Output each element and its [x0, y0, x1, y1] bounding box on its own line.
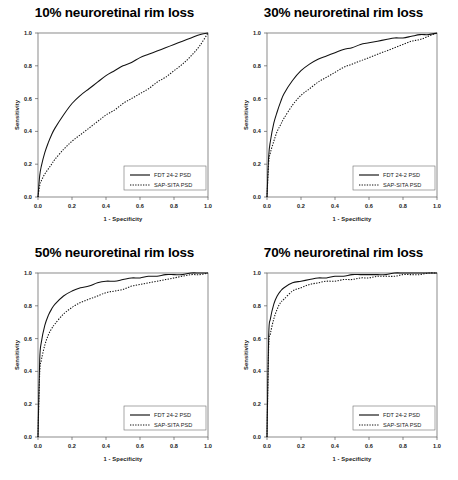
y-tick-label: 0.6 — [24, 336, 32, 342]
y-axis-title: Sensitivity — [14, 339, 20, 370]
x-tick-label: 0.0 — [263, 203, 271, 209]
y-tick-label: 0.0 — [253, 434, 261, 440]
roc-figure: 10% neuroretinal rim loss0.00.20.40.60.8… — [0, 0, 458, 480]
x-tick-label: 0.8 — [170, 203, 178, 209]
legend-label: SAP-SITA PSD — [383, 422, 421, 428]
x-tick-label: 1.0 — [204, 203, 212, 209]
roc-panel-3: 50% neuroretinal rim loss0.00.20.40.60.8… — [0, 240, 229, 480]
y-tick-label: 0.6 — [253, 336, 261, 342]
legend-label: FDT 24-2 PSD — [154, 412, 191, 418]
x-axis-title: 1 - Specificity — [104, 216, 144, 222]
y-tick-label: 0.6 — [253, 96, 261, 102]
legend-label: SAP-SITA PSD — [154, 182, 192, 188]
x-axis-title: 1 - Specificity — [333, 216, 373, 222]
x-tick-label: 0.2 — [297, 443, 305, 449]
x-tick-label: 0.6 — [136, 203, 144, 209]
x-tick-label: 0.4 — [102, 203, 111, 209]
legend-label: SAP-SITA PSD — [383, 182, 421, 188]
y-tick-label: 0.0 — [24, 194, 32, 200]
x-tick-label: 0.2 — [297, 203, 305, 209]
x-axis-title: 1 - Specificity — [104, 456, 144, 462]
y-tick-label: 0.2 — [24, 401, 32, 407]
legend-label: FDT 24-2 PSD — [383, 412, 420, 418]
y-tick-label: 1.0 — [253, 30, 261, 36]
x-tick-label: 0.0 — [34, 443, 42, 449]
y-tick-label: 0.0 — [24, 434, 32, 440]
y-tick-label: 0.0 — [253, 194, 261, 200]
x-axis-title: 1 - Specificity — [333, 456, 373, 462]
roc-panel-2: 30% neuroretinal rim loss0.00.20.40.60.8… — [229, 0, 458, 240]
x-tick-label: 1.0 — [433, 443, 441, 449]
y-tick-label: 0.2 — [253, 401, 261, 407]
x-tick-label: 0.4 — [331, 443, 340, 449]
legend-label: SAP-SITA PSD — [154, 422, 192, 428]
y-tick-label: 1.0 — [24, 270, 32, 276]
y-tick-label: 1.0 — [24, 30, 32, 36]
x-tick-label: 0.8 — [399, 443, 407, 449]
y-tick-label: 0.8 — [253, 303, 261, 309]
roc-panel-4: 70% neuroretinal rim loss0.00.20.40.60.8… — [229, 240, 458, 480]
x-tick-label: 0.6 — [136, 443, 144, 449]
x-tick-label: 0.6 — [365, 443, 373, 449]
roc-plot-area: 0.00.20.40.60.81.00.00.20.40.60.81.01 - … — [0, 240, 229, 480]
x-tick-label: 1.0 — [433, 203, 441, 209]
roc-panel-1: 10% neuroretinal rim loss0.00.20.40.60.8… — [0, 0, 229, 240]
y-tick-label: 0.4 — [24, 128, 33, 134]
y-tick-label: 0.8 — [253, 63, 261, 69]
y-tick-label: 0.8 — [24, 303, 32, 309]
legend-label: FDT 24-2 PSD — [383, 172, 420, 178]
y-axis-title: Sensitivity — [14, 99, 20, 130]
x-tick-label: 0.2 — [68, 443, 76, 449]
x-tick-label: 0.0 — [263, 443, 271, 449]
x-tick-label: 0.4 — [331, 203, 340, 209]
y-tick-label: 0.4 — [253, 128, 262, 134]
y-axis-title: Sensitivity — [243, 339, 249, 370]
x-tick-label: 0.6 — [365, 203, 373, 209]
y-tick-label: 0.4 — [24, 368, 33, 374]
roc-plot-area: 0.00.20.40.60.81.00.00.20.40.60.81.01 - … — [0, 0, 229, 240]
x-tick-label: 0.0 — [34, 203, 42, 209]
y-tick-label: 0.8 — [24, 63, 32, 69]
y-tick-label: 0.2 — [253, 161, 261, 167]
x-tick-label: 0.4 — [102, 443, 111, 449]
y-tick-label: 0.4 — [253, 368, 262, 374]
x-tick-label: 1.0 — [204, 443, 212, 449]
x-tick-label: 0.8 — [170, 443, 178, 449]
roc-plot-area: 0.00.20.40.60.81.00.00.20.40.60.81.01 - … — [229, 0, 458, 240]
y-tick-label: 0.6 — [24, 96, 32, 102]
roc-plot-area: 0.00.20.40.60.81.00.00.20.40.60.81.01 - … — [229, 240, 458, 480]
x-tick-label: 0.8 — [399, 203, 407, 209]
legend-label: FDT 24-2 PSD — [154, 172, 191, 178]
y-axis-title: Sensitivity — [243, 99, 249, 130]
x-tick-label: 0.2 — [68, 203, 76, 209]
y-tick-label: 1.0 — [253, 270, 261, 276]
y-tick-label: 0.2 — [24, 161, 32, 167]
